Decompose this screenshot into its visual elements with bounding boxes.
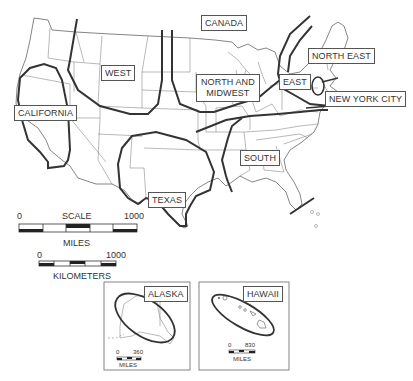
hawaii-scale-start: 0 bbox=[228, 342, 231, 349]
label-south: SOUTH bbox=[240, 150, 280, 166]
km-unit-label: KILOMETERS bbox=[53, 271, 111, 281]
km-scale-end: 1000 bbox=[106, 250, 126, 260]
label-texas: TEXAS bbox=[148, 192, 186, 208]
miles-scale-bar bbox=[19, 224, 137, 232]
label-west: WEST bbox=[101, 65, 135, 81]
scale-title: SCALE bbox=[62, 211, 92, 221]
label-north-and-midwest-line1: NORTH AND bbox=[201, 77, 255, 88]
label-canada: CANADA bbox=[201, 15, 247, 31]
label-new-york-city: NEW YORK CITY bbox=[325, 91, 406, 107]
hawaii-scale-unit: MILES bbox=[233, 356, 251, 363]
miles-unit-label: MILES bbox=[63, 238, 90, 248]
miles-scale-end: 1000 bbox=[124, 211, 144, 221]
label-hawaii: HAWAII bbox=[243, 286, 283, 302]
alaska-scale-start: 0 bbox=[116, 349, 119, 356]
kilometers-scale-bar bbox=[39, 261, 116, 266]
label-north-east: NORTH EAST bbox=[308, 48, 375, 64]
label-california: CALIFORNIA bbox=[14, 105, 77, 121]
alaska-scale-end: 360 bbox=[133, 349, 143, 356]
miles-scale-start: 0 bbox=[17, 211, 22, 221]
label-alaska: ALASKA bbox=[144, 286, 188, 302]
florida-keys bbox=[311, 211, 320, 228]
hawaii-scale-end: 830 bbox=[245, 342, 255, 349]
label-east: EAST bbox=[279, 74, 311, 90]
km-scale-start: 0 bbox=[37, 250, 42, 260]
label-north-and-midwest: NORTH AND MIDWEST bbox=[196, 74, 260, 102]
alaska-scale-unit: MILES bbox=[119, 362, 137, 369]
label-north-and-midwest-line2: MIDWEST bbox=[201, 88, 255, 99]
